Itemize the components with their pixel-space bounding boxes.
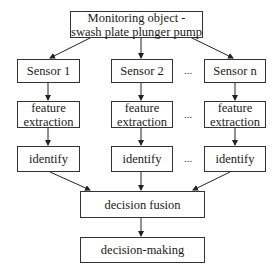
feature-extraction-2-box: feature extraction (111, 101, 173, 128)
identify-1-box: identify (17, 146, 80, 172)
decision-fusion-label: decision fusion (104, 198, 180, 212)
sensor-1-box: Sensor 1 (17, 59, 80, 83)
connector-arrows (0, 0, 280, 274)
feature-extraction-n-label: feature extraction (205, 101, 265, 129)
feature-extraction-1-label: feature extraction (18, 101, 79, 129)
identify-2-label: identify (123, 152, 162, 166)
identify-n-box: identify (204, 146, 266, 172)
sensor-n-box: Sensor n (204, 59, 266, 83)
sensor-2-label: Sensor 2 (120, 64, 163, 78)
feature-extraction-2-label: feature extraction (112, 101, 172, 129)
sensor-1-label: Sensor 1 (27, 64, 70, 78)
feature-extraction-1-box: feature extraction (17, 101, 80, 128)
monitoring-object-box: Monitoring object - swash plate plunger … (70, 11, 203, 38)
decision-making-label: decision-making (101, 243, 184, 257)
ellipsis-identify: ... (184, 152, 192, 164)
ellipsis-sensors: ... (184, 64, 192, 76)
feature-extraction-n-box: feature extraction (204, 101, 266, 128)
identify-1-label: identify (29, 152, 68, 166)
decision-making-box: decision-making (80, 237, 205, 263)
decision-fusion-box: decision fusion (80, 191, 205, 218)
sensor-2-box: Sensor 2 (111, 59, 173, 83)
identify-2-box: identify (111, 146, 173, 172)
ellipsis-features: ... (184, 108, 192, 120)
monitoring-object-label: Monitoring object - swash plate plunger … (71, 11, 202, 39)
identify-n-label: identify (216, 152, 255, 166)
sensor-n-label: Sensor n (213, 64, 256, 78)
